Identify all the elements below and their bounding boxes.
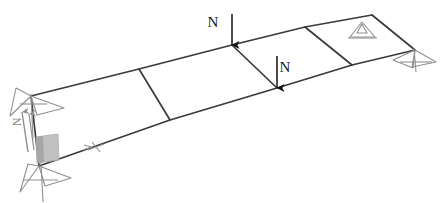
member-cross-2 [232,45,277,88]
support-left-bottom-icon [20,163,71,202]
reaction-label-left: N [10,117,24,126]
frame-diagram-canvas: N N N [0,0,440,203]
member-bottom-chord [39,50,415,166]
supports-group [10,22,436,202]
member-cross-1 [139,69,170,120]
frame-diagram: N N N [0,0,440,203]
support-right-top-icon [348,22,377,38]
member-top-chord [31,15,372,96]
support-left-top-icon [10,88,64,139]
support-right-bottom-icon [393,48,436,72]
member-cross-3 [305,27,352,65]
load-label-bottom: N [280,59,291,75]
shaded-end-patch [36,134,59,163]
member-right-end [372,15,415,50]
load-label-top: N [208,14,219,30]
